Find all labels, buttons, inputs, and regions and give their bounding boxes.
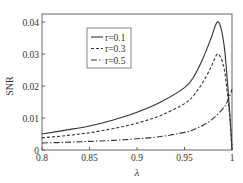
x-tick-label: 0.9 <box>131 153 143 163</box>
x-tick-label: 1 <box>230 153 235 163</box>
legend: r=0.1r=0.3r=0.5 <box>87 28 131 68</box>
series-layer <box>42 22 232 150</box>
x-axis-label: λ <box>134 166 140 178</box>
x-tick-label: 0.95 <box>176 153 193 163</box>
x-tick-label: 0.8 <box>36 153 48 163</box>
snr-line-chart: 00.010.020.030.04 0.80.850.90.951 r=0.1r… <box>0 0 243 183</box>
legend-label: r=0.3 <box>105 44 126 54</box>
x-tick-label: 0.85 <box>81 153 98 163</box>
series-line-r-0-5 <box>42 89 232 143</box>
legend-label: r=0.5 <box>105 56 126 66</box>
y-tick-label: 0.01 <box>22 114 39 124</box>
legend-label: r=0.1 <box>105 33 126 43</box>
x-axis: 0.80.850.90.951 <box>36 147 235 163</box>
y-tick-label: 0.04 <box>22 18 39 28</box>
y-tick-label: 0.03 <box>22 50 39 60</box>
y-axis-label: SNR <box>4 76 15 96</box>
series-line-r-0-1 <box>42 22 232 150</box>
y-tick-label: 0.02 <box>22 82 39 92</box>
series-line-r-0-3 <box>42 54 232 150</box>
